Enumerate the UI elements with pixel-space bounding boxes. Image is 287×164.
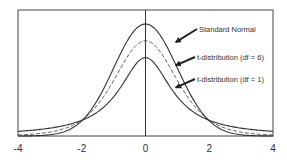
x-tick-label: -4	[14, 143, 23, 154]
annotation-t-df6: t-distribution (df = 6)	[197, 53, 264, 62]
annotation-t-df1: t-distribution (df = 1)	[197, 75, 264, 84]
annotation-standard-normal: Standard Normal	[199, 25, 256, 34]
x-tick-label: 4	[270, 143, 276, 154]
annotation-arrow-1	[176, 29, 197, 42]
chart: -4-2024 Standard Normal t-distribution (…	[0, 0, 287, 164]
annotation-arrow-2	[176, 57, 195, 65]
x-tick-label: 0	[143, 143, 149, 154]
x-tick-label: -2	[77, 143, 86, 154]
x-tick-label: 2	[206, 143, 212, 154]
